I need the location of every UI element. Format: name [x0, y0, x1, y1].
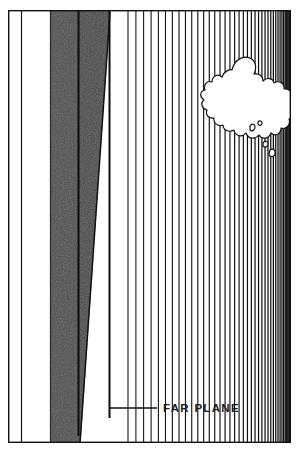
cloud-hole-4 — [269, 149, 275, 156]
cloud-hole-2 — [258, 121, 262, 125]
far-plane-white-wedge — [80, 10, 299, 452]
cloud-hole-3 — [263, 141, 268, 147]
figure-svg: FAR PLANE — [0, 0, 299, 452]
cloud-hole-1 — [250, 124, 255, 131]
figure-root: FAR PLANE — [0, 0, 299, 452]
far-plane-label: FAR PLANE — [163, 402, 240, 414]
